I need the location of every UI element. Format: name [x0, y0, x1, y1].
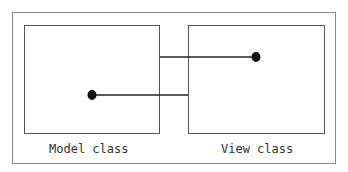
model-dot	[88, 90, 97, 100]
view-dot	[252, 52, 261, 62]
model-class-label: Model class	[49, 142, 128, 156]
view-class-label: View class	[221, 142, 293, 156]
